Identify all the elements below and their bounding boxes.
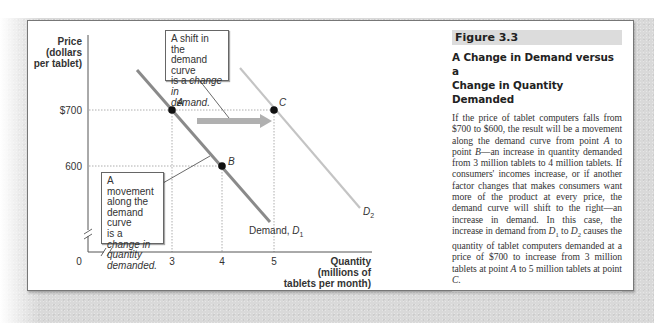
shift-callout-line1: A shift in the — [171, 34, 223, 55]
shift-callout-line4: demand. — [171, 97, 210, 108]
demand-curve-d2 — [240, 68, 360, 208]
figure-title-line1: A Change in Demand versus a — [452, 50, 622, 78]
movement-callout-line1: A movement — [107, 176, 158, 197]
movement-callout-line5: quantity — [107, 249, 142, 260]
movement-callout: A movement along the demand curve is a c… — [101, 172, 164, 244]
d1-label: Demand, D1 — [249, 225, 304, 238]
movement-callout-line6: demanded. — [107, 260, 157, 271]
x-axis-label-line3: tablets per month) — [284, 278, 371, 289]
y-tick-600: 600 — [65, 161, 82, 172]
figure-title-line2: Change in Quantity Demanded — [452, 78, 622, 106]
shift-callout: A shift in the demand curve is a change … — [165, 30, 229, 81]
d2-label: D2 — [363, 206, 374, 219]
point-c-label: C — [279, 97, 287, 108]
d1-label-prefix: Demand, — [249, 225, 292, 236]
x-tick-3: 3 — [169, 256, 175, 267]
shift-callout-line2: demand curve — [171, 55, 223, 76]
figure-title: A Change in Demand versus a Change in Qu… — [452, 50, 622, 106]
y-axis-label-line2: (dollars — [46, 47, 83, 58]
y-tick-700: $700 — [60, 105, 83, 116]
x-tick-origin: 0 — [76, 256, 82, 267]
shift-arrow — [197, 114, 272, 128]
figure-caption: Figure 3.3 A Change in Demand versus a C… — [452, 30, 622, 292]
point-b-marker — [218, 162, 226, 170]
x-tick-4: 4 — [219, 256, 225, 267]
d2-label-letter: D — [363, 206, 370, 217]
d1-label-letter: D — [292, 225, 299, 236]
movement-callout-line4: is a change in — [107, 229, 158, 250]
figure-number: Figure 3.3 — [452, 30, 622, 45]
figure-body-text: If the price of tablet computers falls f… — [452, 112, 622, 285]
movement-callout-line4-plain: is a — [107, 228, 123, 239]
movement-callout-leader — [163, 156, 210, 183]
shift-callout-line3: is a change in — [171, 76, 223, 97]
point-c-marker — [270, 106, 278, 114]
point-b-label: B — [228, 156, 235, 167]
shift-callout-line3-plain: is a — [171, 75, 189, 86]
y-axis-label-line1: Price — [58, 36, 83, 47]
d1-label-sub: 1 — [300, 231, 304, 238]
y-axis-label-line3: per tablet) — [34, 58, 82, 69]
x-axis-label-line1: Quantity — [330, 256, 371, 267]
movement-callout-line3: demand curve — [107, 208, 158, 229]
figure-bottom-rule — [452, 291, 622, 292]
x-axis-label-line2: (millions of — [318, 267, 372, 278]
d2-label-sub: 2 — [370, 212, 374, 219]
movement-callout-line4-italic: change in — [107, 239, 150, 250]
x-tick-5: 5 — [271, 256, 277, 267]
